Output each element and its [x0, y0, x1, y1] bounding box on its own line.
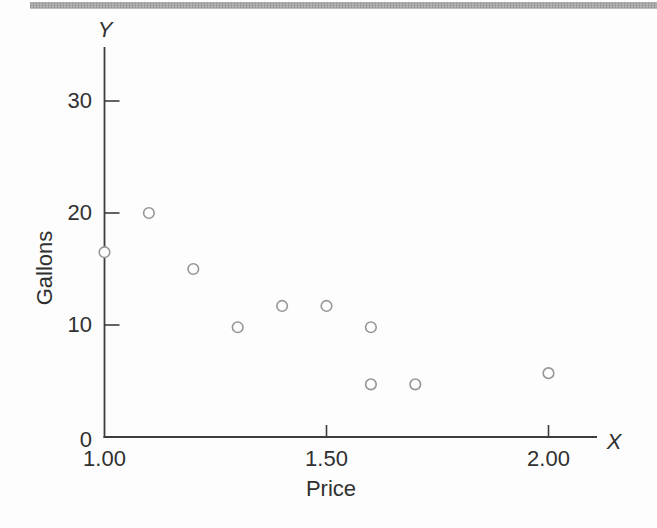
x-axis-variable-label: X — [594, 430, 634, 454]
data-point — [410, 379, 421, 390]
scanned-page: Y X Gallons Price 01020301.001.502.00 — [0, 0, 657, 528]
y-tick-label: 30 — [48, 89, 92, 113]
data-point — [366, 322, 377, 333]
x-tick-label: 2.00 — [509, 447, 589, 471]
data-point — [277, 301, 288, 312]
data-point — [188, 264, 199, 275]
x-tick-label: 1.50 — [287, 447, 367, 471]
data-point — [321, 301, 332, 312]
data-point — [144, 208, 155, 219]
data-point — [232, 322, 243, 333]
data-point — [99, 247, 110, 258]
y-axis-variable-label: Y — [85, 18, 125, 42]
data-point — [366, 379, 377, 390]
y-tick-label: 10 — [48, 313, 92, 337]
data-point — [543, 368, 554, 379]
y-tick-label: 20 — [48, 201, 92, 225]
x-tick-label: 1.00 — [65, 447, 145, 471]
x-axis-title: Price — [271, 477, 391, 501]
